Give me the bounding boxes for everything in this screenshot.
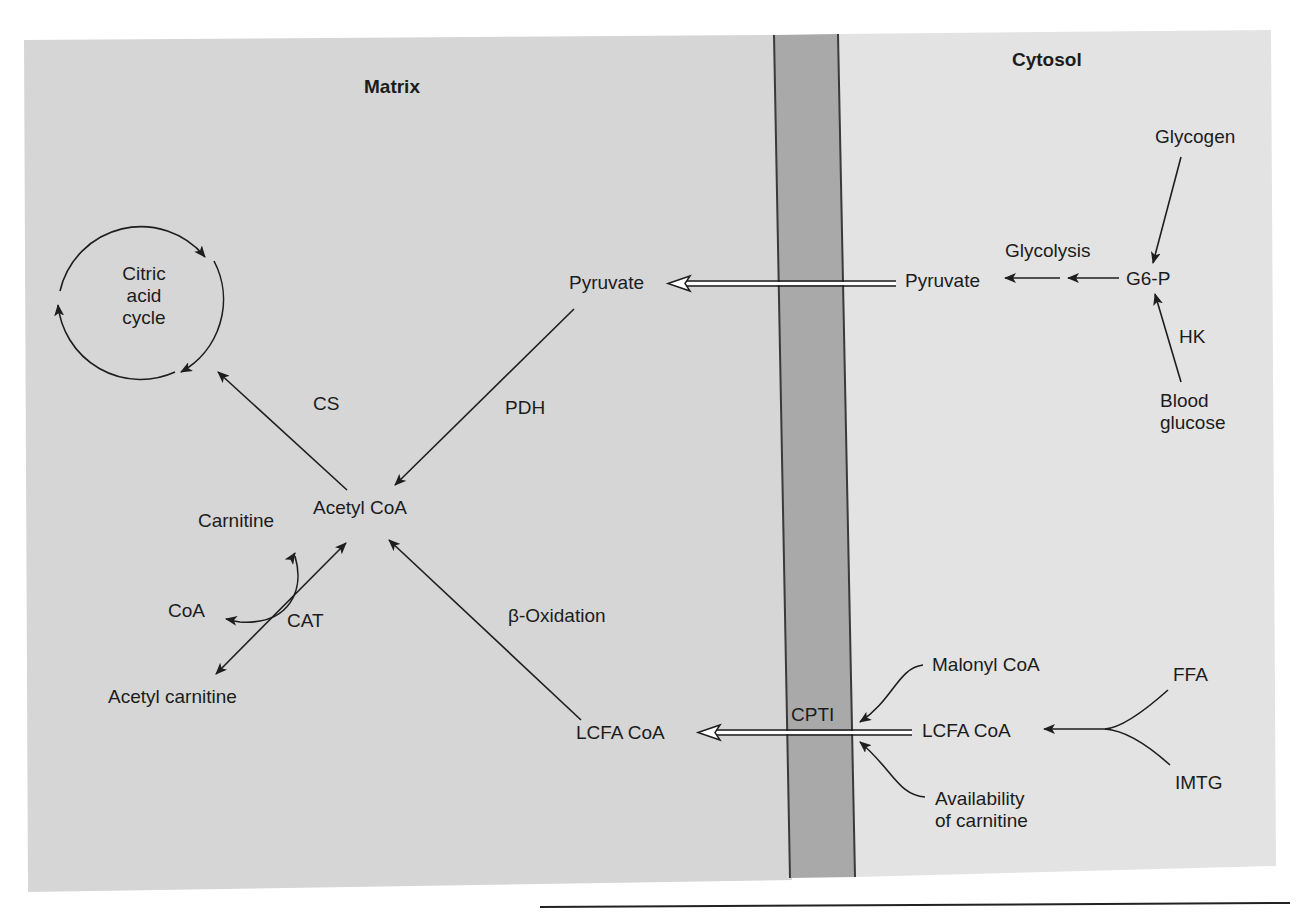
carnitine-node: Carnitine [198,510,274,532]
beta-oxidation-label: β-Oxidation [508,605,606,627]
hk-enzyme-label: HK [1179,326,1205,348]
malonyl-coa-node: Malonyl CoA [932,654,1040,676]
acetyl-carnitine-node: Acetyl carnitine [108,686,237,708]
cytosol-region [838,30,1276,877]
availability-of-carnitine-node: Availability of carnitine [935,788,1028,832]
matrix-title: Matrix [364,76,420,98]
metabolic-pathway-diagram: Matrix Cytosol Citric acid cycle Pyruvat… [0,0,1297,913]
pyruvate-cytosol-node: Pyruvate [905,270,980,292]
blood-glucose-node: Blood glucose [1160,390,1226,434]
g6p-node: G6-P [1126,268,1170,290]
cat-enzyme-label: CAT [287,610,324,632]
imtg-node: IMTG [1175,772,1223,794]
glycolysis-label: Glycolysis [1005,240,1091,262]
bottom-rule [540,903,1290,907]
cpt1-label: CPTI [791,704,834,726]
pdh-enzyme-label: PDH [505,397,545,419]
ffa-node: FFA [1173,664,1208,686]
cytosol-title: Cytosol [1012,49,1082,71]
lcfa-coa-matrix-node: LCFA CoA [576,722,665,744]
acetyl-coa-node: Acetyl CoA [313,497,407,519]
pyruvate-matrix-node: Pyruvate [569,272,644,294]
glycogen-node: Glycogen [1155,126,1235,148]
citric-acid-cycle-label: Citric acid cycle [104,263,184,329]
cs-enzyme-label: CS [313,393,339,415]
lcfa-coa-cytosol-node: LCFA CoA [922,720,1011,742]
coa-node: CoA [168,600,205,622]
matrix-region [24,35,792,892]
diagram-canvas [0,0,1297,913]
